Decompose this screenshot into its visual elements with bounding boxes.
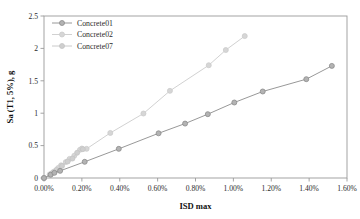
ida-curve-chart: 0.00%0.20%0.40%0.60%0.80%1.00%1.20%1.40%…: [0, 0, 360, 219]
data-point-marker: [70, 156, 75, 161]
data-point-marker: [206, 63, 211, 68]
legend-label: Concrete07: [77, 42, 113, 51]
x-tick-label: 0.00%: [34, 184, 54, 193]
data-point-marker: [205, 112, 210, 117]
legend-marker: [60, 32, 65, 37]
plot-frame: [44, 16, 347, 178]
x-tick-label: 0.40%: [110, 184, 130, 193]
data-point-marker: [183, 121, 188, 126]
data-point-marker: [260, 89, 265, 94]
x-tick-label: 1.40%: [299, 184, 319, 193]
data-point-marker: [141, 111, 146, 116]
data-point-marker: [116, 146, 121, 151]
x-tick-label: 1.20%: [261, 184, 281, 193]
y-tick-label: 1: [34, 109, 38, 118]
y-axis-title: Sa (T1, 5%), g: [5, 70, 15, 123]
chart-container: 0.00%0.20%0.40%0.60%0.80%1.00%1.20%1.40%…: [0, 0, 360, 219]
data-point-marker: [80, 147, 85, 152]
data-point-marker: [82, 159, 87, 164]
x-tick-label: 0.80%: [186, 184, 206, 193]
data-point-marker: [223, 48, 228, 53]
data-point-marker: [65, 159, 70, 164]
x-axis-title: ISD max: [179, 201, 212, 211]
data-point-marker: [59, 164, 64, 169]
data-point-marker: [156, 131, 161, 136]
data-point-marker: [52, 170, 57, 175]
data-point-marker: [108, 130, 113, 135]
legend-label: Concrete01: [77, 19, 113, 28]
data-point-marker: [167, 88, 172, 93]
y-tick-label: 0.5: [29, 141, 39, 150]
x-tick-label: 0.60%: [148, 184, 168, 193]
data-point-marker: [242, 34, 247, 39]
y-tick-label: 1.5: [29, 77, 39, 86]
data-point-marker: [75, 150, 80, 155]
x-tick-label: 1.00%: [224, 184, 244, 193]
x-tick-label: 1.60%: [337, 184, 357, 193]
y-tick-label: 2.5: [29, 12, 39, 21]
data-point-marker: [58, 168, 63, 173]
legend-label: Concrete02: [77, 30, 113, 39]
data-point-marker: [304, 77, 309, 82]
x-tick-label: 0.20%: [72, 184, 92, 193]
y-tick-label: 2: [34, 44, 38, 53]
y-tick-label: 0: [34, 174, 38, 183]
data-point-marker: [329, 63, 334, 68]
data-point-marker: [232, 100, 237, 105]
legend-marker: [60, 21, 65, 26]
legend-marker: [60, 44, 65, 49]
data-point-marker: [42, 176, 47, 181]
